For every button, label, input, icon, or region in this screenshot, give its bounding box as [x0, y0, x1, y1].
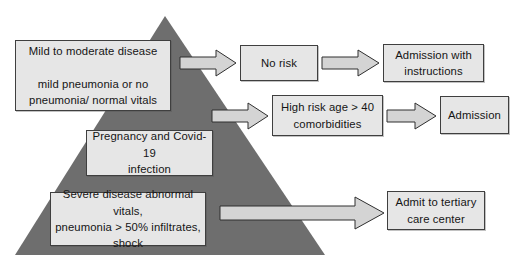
node-admit-to-tertiary-care-center[interactable]: Admit to tertiary care center [387, 191, 485, 230]
node-mild-to-moderate-disease[interactable]: Mild to moderate disease mild pneumonia … [15, 40, 171, 111]
node-no-risk[interactable]: No risk [240, 45, 318, 81]
node-admission-label: Admission [445, 107, 504, 123]
node-mild-label: Mild to moderate disease mild pneumonia … [20, 43, 166, 109]
node-admission[interactable]: Admission [440, 96, 509, 134]
node-high-risk-age-over-40-comorbidities[interactable]: High risk age > 40 comorbidities [272, 95, 383, 136]
node-severe-disease[interactable]: Severe disease abnormal vitals, pneumoni… [50, 192, 206, 246]
node-tertiary-label: Admit to tertiary care center [392, 194, 480, 227]
node-admission-with-instructions[interactable]: Admission with instructions [383, 44, 484, 82]
diagram-canvas: Mild to moderate disease mild pneumonia … [0, 0, 522, 263]
node-high-risk-label: High risk age > 40 comorbidities [277, 99, 378, 132]
node-no-risk-label: No risk [245, 55, 313, 71]
node-severe-label: Severe disease abnormal vitals, pneumoni… [55, 186, 201, 252]
node-admission-with-instructions-label: Admission with instructions [388, 47, 479, 80]
node-pregnancy-and-covid-19-infection[interactable]: Pregnancy and Covid-19 infection [86, 130, 213, 176]
node-pregnancy-label: Pregnancy and Covid-19 infection [91, 128, 208, 177]
